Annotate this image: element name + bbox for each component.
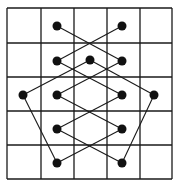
node-dot-n1 bbox=[53, 22, 62, 31]
node-dot-n2 bbox=[118, 22, 127, 31]
grid-graph-diagram bbox=[0, 0, 175, 188]
node-dot-n6 bbox=[19, 91, 28, 100]
node-dot-n3 bbox=[53, 57, 62, 66]
edges bbox=[23, 26, 154, 163]
node-dot-n5 bbox=[118, 57, 127, 66]
node-dot-n8 bbox=[118, 91, 127, 100]
grid bbox=[7, 8, 172, 179]
edge-n9-n13 bbox=[122, 95, 154, 163]
node-dot-n12 bbox=[53, 159, 62, 168]
node-dot-n13 bbox=[118, 159, 127, 168]
node-dot-n10 bbox=[53, 125, 62, 134]
node-dot-n11 bbox=[118, 125, 127, 134]
node-dot-n7 bbox=[53, 91, 62, 100]
node-dot-n4 bbox=[86, 56, 95, 65]
edge-n6-n12 bbox=[23, 95, 57, 163]
node-dot-n9 bbox=[150, 91, 159, 100]
